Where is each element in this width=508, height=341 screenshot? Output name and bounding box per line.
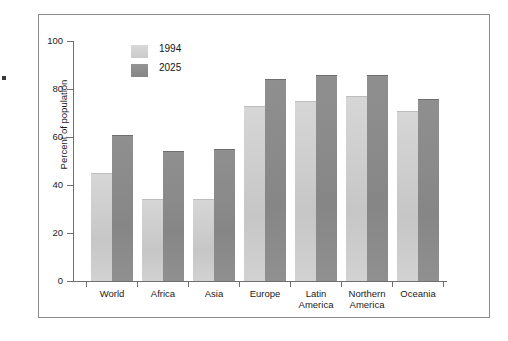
x-axis-tick-mark — [239, 282, 240, 287]
bar-2025-oceania — [418, 99, 439, 281]
x-axis-tick-mark — [137, 282, 138, 287]
plot-area: 020406080100 Percent of population World… — [39, 15, 491, 319]
bar-2025-world — [112, 135, 133, 281]
bar-2025-africa — [163, 151, 184, 281]
x-axis-tick-mark — [86, 282, 87, 287]
bar-group — [295, 41, 337, 281]
bar-group — [193, 41, 235, 281]
x-axis-tick-mark — [188, 282, 189, 287]
bar-2025-asia — [214, 149, 235, 281]
legend-label-1994: 1994 — [159, 43, 181, 54]
x-axis-tick-mark — [341, 282, 342, 287]
x-axis-tick-mark — [392, 282, 393, 287]
x-axis-category-label: Oceania — [382, 289, 454, 300]
bar-series-layer — [39, 15, 491, 319]
x-axis-tick-mark — [443, 282, 444, 287]
bar-1994-world — [91, 173, 112, 281]
bar-1994-northern-america — [346, 96, 367, 281]
bar-2025-latin-america — [316, 75, 337, 281]
legend-swatch-1994 — [131, 45, 148, 58]
page-scan-artifact — [2, 76, 6, 80]
bar-1994-europe — [244, 106, 265, 281]
bar-1994-africa — [142, 199, 163, 281]
legend-label-2025: 2025 — [159, 62, 181, 73]
bar-2025-europe — [265, 79, 286, 281]
bar-group — [244, 41, 286, 281]
bar-group — [142, 41, 184, 281]
bar-1994-asia — [193, 199, 214, 281]
bar-group — [91, 41, 133, 281]
bar-2025-northern-america — [367, 75, 388, 281]
bar-group — [397, 41, 439, 281]
chart-figure-frame: 020406080100 Percent of population World… — [38, 14, 490, 318]
bar-group — [346, 41, 388, 281]
bar-1994-latin-america — [295, 101, 316, 281]
legend-swatch-2025 — [131, 64, 148, 77]
bar-1994-oceania — [397, 111, 418, 281]
x-axis-tick-mark — [290, 282, 291, 287]
